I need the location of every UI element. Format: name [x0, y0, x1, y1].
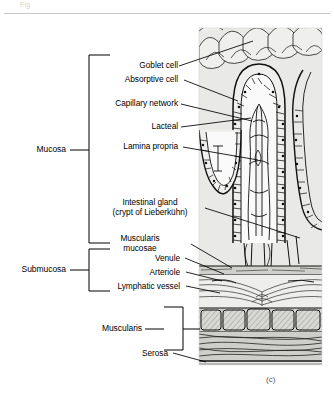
label-intestinal-gland-line2: (crypt of Lieberkühn)	[112, 207, 187, 217]
muscularis-mucosae-layer	[199, 266, 322, 275]
label-muscularis-mucosae: Muscularis mucosae	[96, 234, 184, 253]
label-intestinal-gland-line1: Intestinal gland	[122, 197, 177, 207]
label-lacteal: Lacteal	[58, 122, 178, 132]
muscularis-circular-layer	[199, 308, 322, 332]
label-intestinal-gland: Intestinal gland (crypt of Lieberkühn)	[98, 198, 202, 217]
label-serosa: Serosa	[100, 349, 168, 359]
label-lamina-propria: Lamina propria	[50, 142, 178, 152]
label-goblet-cell: Goblet cell	[58, 61, 178, 71]
label-submucosa: Submucosa	[0, 265, 66, 275]
label-mucosa: Mucosa	[0, 145, 66, 155]
bracket-muscularis	[145, 307, 200, 350]
label-capillary-network: Capillary network	[40, 99, 178, 109]
label-muscularis-mucosae-line2: mucosae	[123, 243, 156, 253]
figure-panel: Fig	[0, 0, 334, 401]
label-arteriole: Arteriole	[96, 268, 180, 278]
label-muscularis: Muscularis	[70, 324, 142, 334]
label-absorptive-cell: Absorptive cell	[48, 75, 178, 85]
label-venule: Venule	[100, 254, 180, 264]
label-muscularis-mucosae-line1: Muscularis	[120, 233, 159, 243]
label-lymphatic-vessel: Lymphatic vessel	[70, 282, 180, 292]
panel-caption: (c)	[266, 375, 275, 384]
muscularis-longitudinal-layer	[199, 332, 322, 360]
